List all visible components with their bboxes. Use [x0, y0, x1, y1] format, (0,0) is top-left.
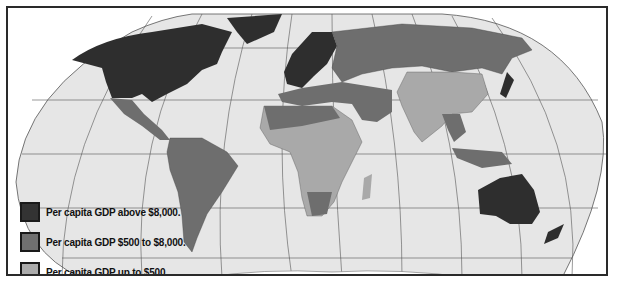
legend-label-middle: Per capita GDP $500 to $8,000. — [46, 237, 185, 248]
legend-label-low: Per capita GDP up to $500. — [46, 267, 168, 277]
legend-item-high: Per capita GDP above $8,000. — [20, 200, 185, 224]
legend-item-low: Per capita GDP up to $500. — [20, 260, 185, 276]
legend-swatch-high — [20, 202, 40, 222]
legend-item-middle: Per capita GDP $500 to $8,000. — [20, 230, 185, 254]
legend-label-high: Per capita GDP above $8,000. — [46, 207, 180, 218]
map-frame: Per capita GDP above $8,000. Per capita … — [6, 6, 608, 276]
legend: Per capita GDP above $8,000. Per capita … — [20, 200, 185, 276]
legend-swatch-middle — [20, 232, 40, 252]
legend-swatch-low — [20, 262, 40, 276]
